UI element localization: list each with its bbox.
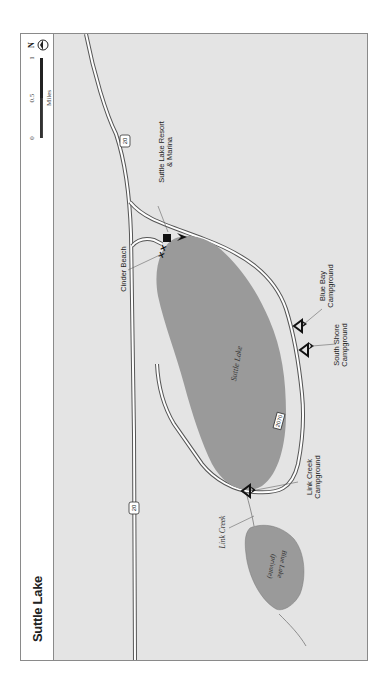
map-frame: N 0 0.5 1 Miles Suttle Lake: [20, 33, 368, 661]
svg-text:20: 20: [131, 504, 137, 511]
poi-label-blue-bay-line2: Campground: [326, 264, 335, 307]
map-title-box: Suttle Lake: [23, 564, 51, 654]
map-area[interactable]: Suttle Lake Blue Lake (private) 20 20 20…: [54, 34, 367, 660]
north-label: N: [27, 42, 36, 48]
highway-20-shield-lower: 20: [129, 502, 139, 514]
scale-tick-0: 0: [28, 136, 36, 140]
map-sidebar-strip: N 0 0.5 1 Miles Suttle Lake: [21, 34, 54, 660]
map-legend: N 0 0.5 1 Miles: [21, 34, 54, 234]
scale-tick-half: 0.5: [28, 93, 36, 102]
poi-label-south-shore-line2: Campground: [340, 323, 349, 366]
scale-unit: Miles: [45, 90, 53, 106]
lodging-icon[interactable]: [163, 234, 171, 242]
svg-text:20: 20: [122, 137, 128, 144]
scale-bar: 0 0.5 1 Miles: [28, 56, 53, 140]
highway-20-shield-upper: 20: [120, 135, 130, 147]
campground-icon[interactable]: [300, 344, 308, 356]
poi-label-link-creek-line2: Campground: [313, 455, 322, 498]
campground-icon[interactable]: [294, 320, 302, 332]
poi-label-resort-line2: & Marina: [165, 136, 174, 167]
scale-tick-1: 1: [28, 56, 36, 60]
north-arrow-icon: N: [27, 40, 48, 50]
map-title: Suttle Lake: [30, 576, 45, 642]
map-canvas: Suttle Lake Blue Lake (private) 20 20 20…: [54, 34, 367, 660]
poi-label-cinder-beach: Cinder Beach: [119, 246, 128, 291]
stream-label-link-creek: Link Creek: [218, 515, 227, 550]
highway-20: [86, 34, 135, 660]
